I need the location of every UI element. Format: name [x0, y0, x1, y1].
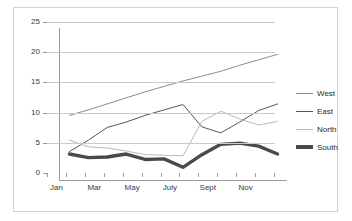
- x-axis-tick-label: Mar: [79, 184, 109, 192]
- legend-item-south[interactable]: South: [296, 138, 350, 156]
- x-axis-tick-mark: [217, 173, 218, 177]
- legend-label: South: [317, 143, 338, 152]
- y-axis-tick-label: 5: [20, 139, 40, 147]
- gridline: [47, 82, 275, 83]
- series-line-west: [69, 54, 277, 115]
- y-axis-tick-mark: [43, 52, 47, 53]
- y-axis-tick-label: 25: [20, 18, 40, 26]
- x-axis-tick-label: Nov: [231, 184, 261, 192]
- x-axis-tick-mark: [142, 173, 143, 177]
- x-axis-tick-label: July: [155, 184, 185, 192]
- gridline: [47, 52, 275, 53]
- x-axis-tick-mark: [198, 173, 199, 177]
- legend-line-swatch-icon: [296, 143, 313, 151]
- x-axis-tick-mark: [255, 173, 256, 177]
- y-axis-tick-mark: [43, 113, 47, 114]
- x-axis-tick-label: Sept: [193, 184, 223, 192]
- y-axis-tick-label: 20: [20, 48, 40, 56]
- y-axis-tick-mark: [43, 82, 47, 83]
- legend-item-north[interactable]: North: [296, 120, 350, 138]
- x-axis-tick-mark: [274, 173, 275, 177]
- x-axis-tick-mark: [236, 173, 237, 177]
- legend-line-swatch-icon: [296, 89, 313, 97]
- x-axis-tick-mark: [123, 173, 124, 177]
- x-axis-tick-mark: [179, 173, 180, 177]
- x-axis-tick-mark: [161, 173, 162, 177]
- x-axis-tick-mark: [47, 173, 48, 177]
- legend-item-east[interactable]: East: [296, 102, 350, 120]
- y-axis-tick-mark: [43, 143, 47, 144]
- gridline: [47, 22, 275, 23]
- gridline: [47, 143, 275, 144]
- legend-label: North: [317, 125, 337, 134]
- y-axis-tick-mark: [43, 22, 47, 23]
- legend-line-swatch-icon: [296, 125, 313, 133]
- x-axis-tick-label: May: [117, 184, 147, 192]
- y-axis-tick-label: 15: [20, 78, 40, 86]
- chart-screenshot: 0510152025 JanMarMayJulySeptNov WestEast…: [0, 0, 352, 221]
- gridline: [47, 113, 275, 114]
- chart-frame: 0510152025 JanMarMayJulySeptNov WestEast…: [13, 7, 338, 212]
- y-axis-tick-mark: [43, 173, 47, 174]
- x-axis-tick-label: Jan: [41, 184, 71, 192]
- legend-label: East: [317, 107, 333, 116]
- y-axis-tick-label: 0: [20, 169, 40, 177]
- x-axis-tick-mark: [104, 173, 105, 177]
- legend-line-swatch-icon: [296, 107, 313, 115]
- legend-label: West: [317, 89, 335, 98]
- x-axis-tick-mark: [85, 173, 86, 177]
- chart-legend: WestEastNorthSouth: [296, 84, 350, 156]
- x-axis-tick-mark: [66, 173, 67, 177]
- y-axis-tick-label: 10: [20, 109, 40, 117]
- legend-item-west[interactable]: West: [296, 84, 350, 102]
